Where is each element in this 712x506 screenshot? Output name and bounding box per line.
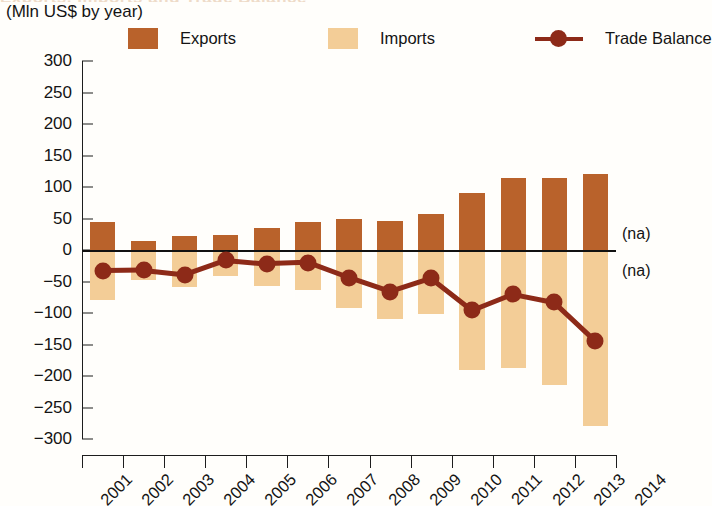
na-annotation: (na) (622, 262, 650, 280)
y-tick-label: −300 (20, 429, 72, 449)
trade-balance-point (176, 266, 193, 283)
x-tick-label: 2003 (179, 470, 218, 506)
plot-area: 300250200150100500−50−100−150−200−250−30… (82, 61, 616, 439)
trade-balance-point (135, 262, 152, 279)
y-tick-mark (82, 92, 93, 93)
x-tick-label: 2008 (384, 470, 423, 506)
y-tick-mark (82, 344, 93, 345)
trade-balance-point (94, 262, 111, 279)
y-tick-label: −50 (20, 272, 72, 292)
x-tick-label: 2001 (97, 470, 136, 506)
exports-bar (377, 221, 402, 250)
x-tick-mark (575, 455, 576, 468)
exports-bar (418, 214, 443, 250)
x-tick-mark (164, 455, 165, 468)
y-tick-label: −200 (20, 366, 72, 386)
x-tick-mark (493, 455, 494, 468)
legend-item-exports: Exports (128, 28, 236, 49)
x-tick-mark (82, 455, 83, 468)
trade-balance-point (217, 252, 234, 269)
exports-bar (90, 222, 115, 250)
exports-bar (542, 178, 567, 250)
trade-balance-point (382, 283, 399, 300)
exports-bar (172, 236, 197, 250)
trade-balance-point (546, 294, 563, 311)
exports-bar (336, 219, 361, 251)
legend-item-imports: Imports (328, 28, 435, 49)
y-tick-label: 200 (20, 114, 72, 134)
x-tick-label: 2010 (466, 470, 505, 506)
chart-subtitle: (Mln US$ by year) (6, 2, 143, 22)
y-tick-label: 100 (20, 177, 72, 197)
trade-balance-point (505, 286, 522, 303)
imports-bar (542, 250, 567, 385)
y-tick-mark (82, 155, 93, 156)
trade-balance-point (423, 270, 440, 287)
y-tick-label: 300 (20, 51, 72, 71)
zero-baseline (82, 250, 616, 252)
exports-bar (459, 193, 484, 250)
x-tick-label: 2013 (590, 470, 629, 506)
y-tick-label: 250 (20, 83, 72, 103)
trade-balance-point (258, 255, 275, 272)
x-tick-mark (411, 455, 412, 468)
legend-label-trade-balance: Trade Balance (605, 29, 712, 48)
x-tick-label: 2002 (138, 470, 177, 506)
y-tick-mark (82, 187, 93, 188)
x-axis-line (82, 455, 616, 456)
exports-bar (254, 228, 279, 250)
na-annotation: (na) (622, 225, 650, 243)
y-tick-label: 50 (20, 209, 72, 229)
x-tick-mark (287, 455, 288, 468)
legend-label-imports: Imports (380, 29, 435, 48)
x-tick-mark (452, 455, 453, 468)
x-tick-mark (328, 455, 329, 468)
y-tick-mark (82, 407, 93, 408)
y-tick-label: −150 (20, 335, 72, 355)
x-tick-label: 2009 (425, 470, 464, 506)
imports-bar (501, 250, 526, 368)
x-tick-mark (205, 455, 206, 468)
y-tick-label: −250 (20, 398, 72, 418)
trade-balance-point (587, 332, 604, 349)
y-tick-label: 0 (20, 240, 72, 260)
x-tick-label: 2011 (507, 470, 546, 506)
y-tick-mark (82, 124, 93, 125)
x-tick-mark (370, 455, 371, 468)
x-tick-label: 2004 (220, 470, 259, 506)
legend-item-trade-balance: Trade Balance (535, 28, 712, 49)
x-tick-label: 2007 (343, 470, 382, 506)
chart-legend: Exports Imports Trade Balance (128, 28, 712, 49)
y-tick-label: 150 (20, 146, 72, 166)
exports-bar (583, 174, 608, 250)
y-tick-mark (82, 61, 93, 62)
y-tick-mark (82, 439, 93, 440)
y-tick-label: −100 (20, 303, 72, 323)
x-tick-label: 2006 (302, 470, 341, 506)
exports-bar (131, 241, 156, 250)
y-tick-mark (82, 218, 93, 219)
trade-balance-point (299, 254, 316, 271)
x-tick-label: 2005 (261, 470, 300, 506)
x-tick-label: 2014 (631, 470, 670, 506)
trade-balance-marker-icon (535, 28, 583, 49)
x-tick-mark (534, 455, 535, 468)
x-tick-mark (246, 455, 247, 468)
x-tick-label: 2012 (549, 470, 588, 506)
exports-bar (295, 222, 320, 250)
exports-swatch-icon (128, 28, 158, 49)
exports-bar (501, 178, 526, 250)
y-tick-mark (82, 313, 93, 314)
trade-balance-point (341, 269, 358, 286)
x-tick-mark (616, 455, 617, 468)
x-tick-mark (123, 455, 124, 468)
imports-swatch-icon (328, 28, 358, 49)
exports-bar (213, 235, 238, 250)
trade-balance-point (464, 302, 481, 319)
legend-label-exports: Exports (180, 29, 236, 48)
y-tick-mark (82, 376, 93, 377)
